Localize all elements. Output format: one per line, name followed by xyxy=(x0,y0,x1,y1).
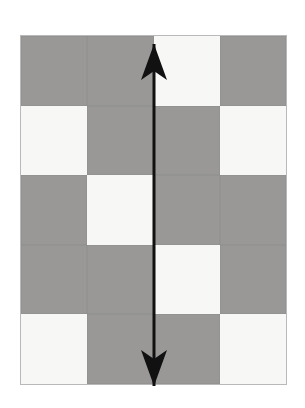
grid-cell-r5c4 xyxy=(220,314,286,384)
grid-cell-r1c2 xyxy=(87,36,153,106)
grid-cell-r4c3 xyxy=(154,245,220,315)
grid-cell-r4c4 xyxy=(220,245,286,315)
grid-cell-r3c2 xyxy=(87,175,153,245)
grid-cell-r2c2 xyxy=(87,106,153,176)
grid-cell-r4c1 xyxy=(21,245,87,315)
grid-cell-r1c1 xyxy=(21,36,87,106)
grid-cell-r2c3 xyxy=(154,106,220,176)
grid-cell-r3c4 xyxy=(220,175,286,245)
checkerboard-grid xyxy=(20,35,287,385)
grid-cell-r5c2 xyxy=(87,314,153,384)
grid-cell-r2c4 xyxy=(220,106,286,176)
grid-cell-r1c4 xyxy=(220,36,286,106)
grid-cell-r1c3 xyxy=(154,36,220,106)
figure-root xyxy=(0,0,305,408)
grid-cell-r4c2 xyxy=(87,245,153,315)
grid-cell-r3c1 xyxy=(21,175,87,245)
grid-cell-r5c1 xyxy=(21,314,87,384)
grid-cell-r3c3 xyxy=(154,175,220,245)
grid-cell-r2c1 xyxy=(21,106,87,176)
grid-cell-r5c3 xyxy=(154,314,220,384)
